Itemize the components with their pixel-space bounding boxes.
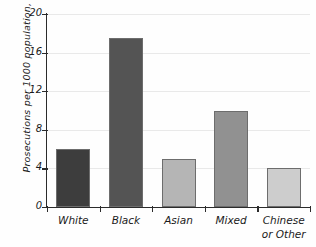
chart-screenshot: Prosecutions per 1000 population, 2014 0… (0, 0, 316, 247)
x-label-chinese-or-other: Chineseor Other (251, 213, 316, 241)
bar-chinese-or-other (267, 168, 301, 207)
y-tick-label: 4 (2, 161, 42, 172)
y-tick-label: 12 (2, 84, 42, 95)
x-tick-mark (310, 206, 311, 212)
y-tick-label: 8 (2, 123, 42, 134)
x-axis-line (46, 207, 310, 208)
y-tick-label: 16 (2, 46, 42, 57)
bar-black (109, 38, 143, 207)
bar-asian (162, 159, 196, 207)
bar-mixed (214, 111, 248, 208)
y-tick-label: 0 (2, 200, 42, 211)
plot-area (47, 14, 310, 207)
y-tick-label: 20 (2, 7, 42, 18)
x-label-line2: or Other (251, 227, 316, 241)
bar-white (56, 149, 90, 207)
